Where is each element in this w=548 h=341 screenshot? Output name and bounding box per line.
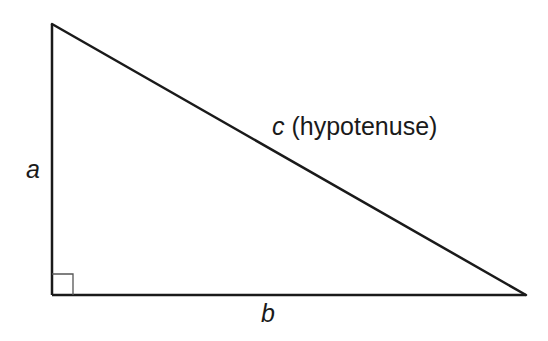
- label-side-a: a: [26, 155, 40, 183]
- label-hypotenuse: c (hypotenuse): [272, 112, 437, 140]
- label-side-b: b: [261, 299, 275, 327]
- label-side-c: c: [272, 112, 285, 140]
- right-triangle-diagram: a b c (hypotenuse): [0, 0, 548, 341]
- label-hypotenuse-desc: (hypotenuse): [285, 112, 438, 140]
- right-angle-marker-icon: [52, 274, 73, 295]
- hypotenuse-line: [52, 24, 526, 295]
